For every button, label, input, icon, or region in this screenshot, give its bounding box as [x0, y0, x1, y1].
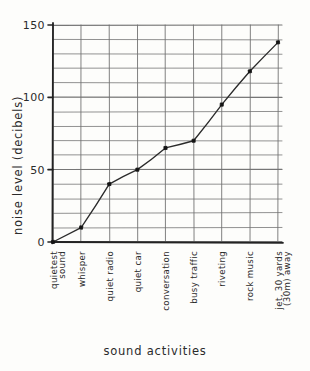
data-point-marker: [107, 182, 111, 186]
data-point-marker: [192, 139, 195, 142]
x-axis-category-label: riveting: [217, 251, 227, 287]
data-point-marker: [220, 103, 223, 106]
data-point-marker: [51, 240, 55, 244]
x-axis-category-label: quietestsound: [49, 251, 68, 289]
data-point-marker: [248, 70, 252, 74]
horizontal-gridlines: [53, 25, 282, 242]
y-axis-tick-labels: 050100150: [23, 19, 45, 249]
y-axis-tick-label: 150: [23, 19, 45, 32]
x-axis-category-label-line: conversation: [161, 251, 171, 311]
data-point-marker: [79, 226, 83, 230]
x-axis-title: sound activities: [103, 344, 206, 358]
data-point-marker: [164, 146, 167, 149]
x-axis-category-label-line: sound: [57, 251, 67, 279]
x-axis-category-label: conversation: [161, 251, 171, 311]
x-axis-category-label: rock music: [245, 251, 255, 301]
x-axis-category-label-line: busy traffic: [189, 251, 199, 304]
x-axis-category-label: quiet car: [133, 251, 143, 292]
x-axis-category-label-line: quiet car: [133, 251, 143, 292]
x-axis-category-labels: quietestsoundwhisperquiet radioquiet car…: [49, 251, 293, 311]
y-axis-title: noise level (decibels): [11, 96, 25, 235]
x-axis-category-label-line: quiet radio: [105, 251, 115, 301]
axis-lines: [52, 23, 283, 243]
x-axis-category-label: busy traffic: [189, 251, 199, 304]
y-axis-tick-label: 100: [23, 91, 45, 104]
x-axis-category-label-line: (30m) away: [282, 251, 292, 306]
x-axis-category-label-line: riveting: [217, 251, 227, 287]
data-point-marker: [136, 168, 139, 171]
chart-canvas: 050100150 quietestsoundwhisperquiet radi…: [0, 0, 310, 371]
x-axis-category-label: quiet radio: [105, 251, 115, 301]
x-axis-category-label-line: rock music: [245, 251, 255, 301]
chart-figure: 050100150 quietestsoundwhisperquiet radi…: [0, 0, 310, 371]
y-axis-tick-label: 0: [38, 236, 45, 249]
x-axis-category-label-line: whisper: [77, 251, 87, 287]
data-point-marker: [276, 41, 279, 44]
vertical-gridlines: [53, 25, 278, 242]
x-axis-category-label: whisper: [77, 251, 87, 287]
y-axis-tick-label: 50: [30, 164, 45, 177]
x-axis-category-label: jet, 30 yards(30m) away: [274, 251, 293, 311]
